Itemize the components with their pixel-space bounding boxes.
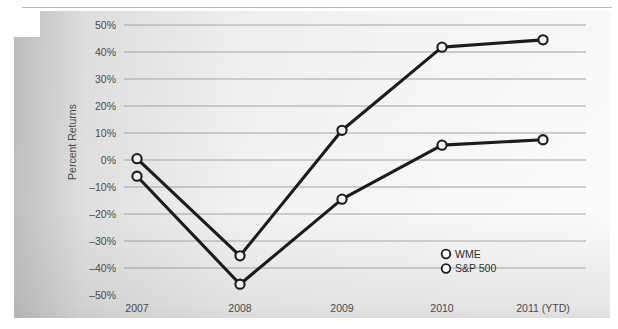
line-chart-plot: 50%40%30%20%10%0%–10%–20%–30%–40%–50%200… [14,11,610,318]
y-axis-tick-label: –20% [89,208,116,220]
data-point-marker [235,251,244,260]
y-axis-tick-label: –40% [89,262,116,274]
y-axis-tick-label: –30% [89,235,116,247]
x-axis-tick-label: 2007 [125,302,149,314]
x-axis-tick-label: 2010 [430,302,454,314]
y-axis-tick-label: 10% [95,127,116,139]
data-point-marker [437,43,446,52]
legend-label-2: S&P 500 [455,262,496,274]
y-axis-title: Percent Returns [66,104,78,180]
x-axis-tick-label: 2008 [228,302,252,314]
x-axis-tick-label: 2009 [330,302,354,314]
legend-marker-1 [442,250,451,259]
data-point-marker [235,280,244,289]
data-point-marker [437,141,446,150]
data-point-marker [337,195,346,204]
data-point-marker [538,35,547,44]
y-axis-tick-label: 0% [101,154,116,166]
page-top-rule [22,7,612,8]
data-point-marker [538,135,547,144]
y-axis-tick-label: 20% [95,100,116,112]
data-point-marker [132,172,141,181]
y-axis-tick-label: –50% [89,289,116,301]
legend-marker-2 [442,264,451,273]
y-axis-tick-label: 30% [95,73,116,85]
x-axis-tick-label: 2011 (YTD) [516,302,570,314]
y-axis-tick-label: –10% [89,181,116,193]
chart-screenshot: 50%40%30%20%10%0%–10%–20%–30%–40%–50%200… [0,0,618,329]
series-line-1 [137,40,543,256]
y-axis-tick-label: 50% [95,19,116,31]
chart-panel: 50%40%30%20%10%0%–10%–20%–30%–40%–50%200… [14,11,610,318]
y-axis-tick-label: 40% [95,46,116,58]
data-point-marker [337,126,346,135]
data-point-marker [132,154,141,163]
legend-label-1: WME [455,248,481,260]
